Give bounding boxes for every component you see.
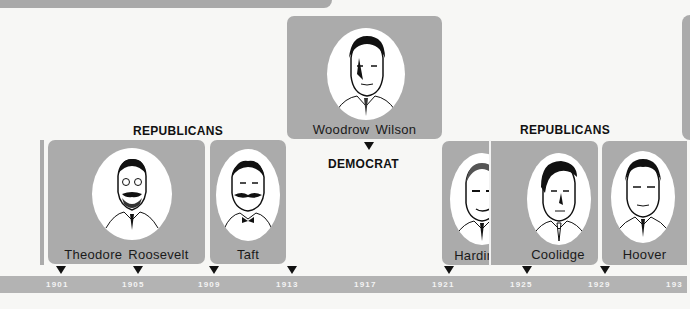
pointer-1913-icon (287, 266, 297, 274)
president-card-hoover: Hoover (602, 141, 687, 265)
president-name-hoover: Hoover (602, 247, 687, 262)
year-1905: 1905 (122, 280, 145, 289)
democrat-pointer-icon (364, 142, 374, 150)
portrait-sketch-icon (611, 151, 675, 243)
era-start-line (40, 140, 44, 265)
year-1917: 1917 (354, 280, 377, 289)
portrait-wilson (327, 28, 405, 120)
portrait-roosevelt (92, 148, 172, 240)
portrait-hoover (611, 151, 675, 243)
portrait-sketch-icon (92, 148, 172, 240)
portrait-sketch-icon (327, 28, 405, 120)
pointer-1905-icon (133, 266, 143, 274)
president-card-roosevelt: Theodore Roosevelt (48, 140, 205, 264)
pointer-1901-icon (56, 266, 66, 274)
portrait-sketch-icon (216, 149, 280, 241)
pointer-1909-icon (209, 266, 219, 274)
year-1925: 1925 (510, 280, 533, 289)
pointer-1929-icon (600, 266, 610, 274)
year-1909: 1909 (198, 280, 221, 289)
pointer-1925-icon (522, 266, 532, 274)
president-name-taft: Taft (210, 247, 286, 262)
right-edge-panel (682, 15, 690, 140)
president-name-coolidge: Coolidge (521, 247, 595, 262)
portrait-sketch-icon (527, 153, 591, 245)
portrait-taft (216, 149, 280, 241)
year-1933: 193 (666, 280, 683, 289)
year-1901: 1901 (46, 280, 69, 289)
year-1913: 1913 (276, 280, 299, 289)
year-1929: 1929 (588, 280, 611, 289)
party-label-democrat: DEMOCRAT (328, 157, 399, 171)
party-label-republicans-left: REPUBLICANS (133, 124, 223, 138)
year-1921: 1921 (432, 280, 455, 289)
timeline-bar (0, 276, 687, 293)
pointer-1921-icon (444, 266, 454, 274)
president-card-taft: Taft (210, 140, 286, 264)
president-name-roosevelt: Theodore Roosevelt (48, 247, 205, 262)
portrait-coolidge (527, 153, 591, 245)
president-card-wilson: Woodrow Wilson (287, 16, 442, 139)
president-name-wilson: Woodrow Wilson (287, 122, 442, 137)
party-label-republicans-right: REPUBLICANS (520, 123, 610, 137)
term-divider (489, 140, 491, 266)
president-card-coolidge: Coolidge (491, 141, 598, 265)
top-banner-bar (0, 0, 332, 8)
